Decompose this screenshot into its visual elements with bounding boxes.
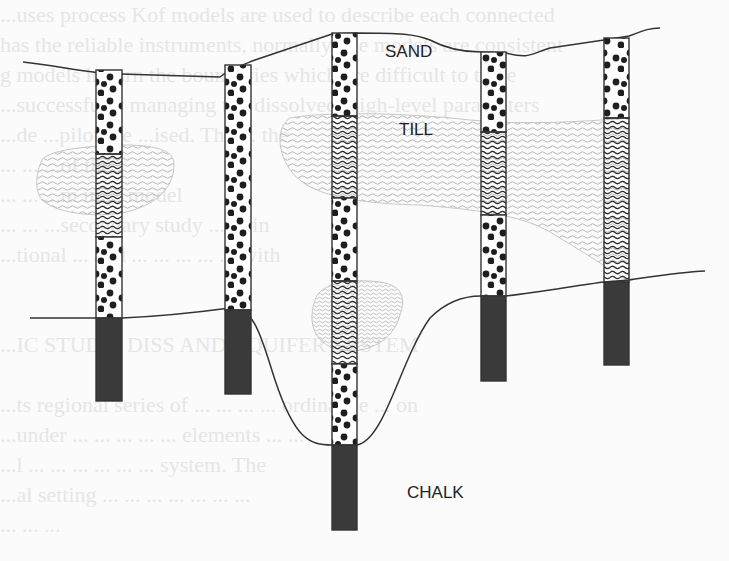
- till-layer: [96, 154, 122, 237]
- chalk-layer: [96, 318, 122, 401]
- borehole-bh2: [225, 65, 251, 394]
- sand-layer: [604, 38, 629, 118]
- till-layer: [604, 118, 629, 282]
- chalk-layer: [481, 296, 506, 381]
- borehole-bh3: [332, 33, 357, 530]
- till-label: TILL: [399, 120, 433, 139]
- sand-layer: [481, 215, 506, 296]
- borehole-bh1: [96, 70, 122, 401]
- till-layer: [332, 281, 357, 364]
- geology-diagram: SAND TILL CHALK: [0, 0, 729, 561]
- chalk-layer: [332, 445, 357, 530]
- chalk-label: CHALK: [407, 483, 464, 502]
- sand-layer: [332, 364, 357, 445]
- till-layer: [332, 116, 357, 198]
- chalk-layer: [225, 310, 251, 394]
- borehole-bh4: [481, 52, 506, 381]
- sand-layer: [225, 65, 251, 310]
- sand-label: SAND: [385, 42, 432, 61]
- borehole-bh5: [604, 38, 629, 365]
- sand-layer: [481, 52, 506, 132]
- sand-layer: [96, 237, 122, 318]
- till-layer: [481, 132, 506, 215]
- sand-layer: [96, 70, 122, 154]
- cross-section-figure: ...uses process Kof models are used to d…: [0, 0, 729, 561]
- sand-layer: [332, 33, 357, 116]
- sand-layer: [332, 198, 357, 281]
- chalk-layer: [604, 282, 629, 365]
